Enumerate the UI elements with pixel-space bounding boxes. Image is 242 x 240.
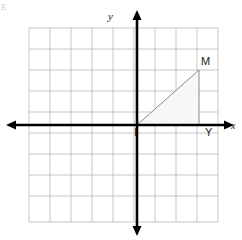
y-axis-arrow-top-icon [133, 10, 142, 20]
x-axis-arrow-left-icon [6, 121, 16, 130]
x-axis [6, 121, 234, 130]
y-axis-arrow-bottom-icon [133, 226, 142, 236]
plot-canvas [0, 0, 242, 240]
vertex-label-y: Y [205, 127, 212, 138]
triangle-iym [137, 70, 199, 125]
coordinate-plane-figure: E [0, 0, 242, 240]
y-axis-label: y [108, 11, 113, 22]
x-axis-label: x [231, 121, 235, 131]
vertex-label-i: I [134, 127, 137, 138]
vertex-label-m: M [201, 56, 210, 67]
triangle-shape [137, 70, 199, 125]
